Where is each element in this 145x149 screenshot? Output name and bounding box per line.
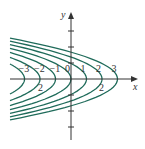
level-label: 2 bbox=[96, 63, 101, 74]
level-label: 1 bbox=[81, 63, 86, 74]
y-axis-label: y bbox=[60, 9, 66, 20]
level-label: −3 bbox=[19, 63, 30, 74]
level-label: −1 bbox=[50, 63, 61, 74]
y-axis-arrow-icon bbox=[68, 12, 74, 19]
level-label: 3 bbox=[112, 63, 117, 74]
x-axis-label: x bbox=[132, 81, 138, 92]
x-tick-label-2: 2 bbox=[99, 82, 104, 93]
contour-plot: −3−2−10123 x y 2 2 bbox=[0, 0, 145, 149]
level-label: −2 bbox=[34, 63, 45, 74]
level-labels: −3−2−10123 bbox=[19, 63, 117, 74]
level-label: 0 bbox=[65, 63, 70, 74]
x-tick-label-neg2: 2 bbox=[38, 82, 43, 93]
